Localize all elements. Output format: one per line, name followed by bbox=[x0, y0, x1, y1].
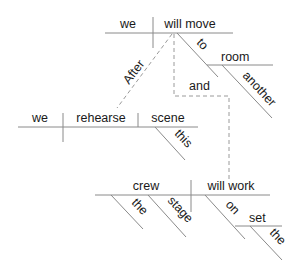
compound-verb: will work bbox=[206, 179, 255, 193]
subordinate-verb: rehearse bbox=[76, 111, 125, 125]
compound-subject-modifier-the: the bbox=[129, 195, 151, 217]
subordinate-modifier: this bbox=[172, 126, 196, 150]
preposition-on-line bbox=[205, 195, 245, 239]
main-preposition: to bbox=[194, 35, 211, 52]
sentence-diagram: we will move to room another After and w… bbox=[0, 0, 303, 273]
main-modifier: another bbox=[240, 68, 279, 109]
compound-preposition: on bbox=[223, 197, 243, 217]
main-verb: will move bbox=[163, 17, 215, 31]
compound-conjunction: and bbox=[189, 79, 210, 93]
compound-subject: crew bbox=[133, 179, 160, 193]
preposition-to-line bbox=[177, 33, 218, 77]
subordinate-subject: we bbox=[31, 111, 48, 125]
compound-object-modifier: the bbox=[267, 225, 289, 247]
compound-prep-object: set bbox=[249, 211, 266, 225]
subordinate-object: scene bbox=[151, 111, 184, 125]
main-subject: we bbox=[119, 17, 136, 31]
subordinate-conjunction: After bbox=[120, 57, 147, 87]
main-prep-object: room bbox=[221, 50, 249, 64]
